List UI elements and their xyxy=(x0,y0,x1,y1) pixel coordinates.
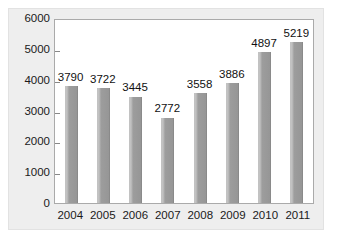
y-tick-label: 1000 xyxy=(9,167,50,179)
bar-value-label: 4897 xyxy=(251,38,277,50)
y-axis: 0100020003000400050006000 xyxy=(9,19,50,204)
plot-area: 37903722344527723558388648975219 xyxy=(54,19,314,204)
bar-value-label: 3886 xyxy=(219,69,245,81)
bar-series: 37903722344527723558388648975219 xyxy=(55,20,313,203)
bar xyxy=(226,83,239,203)
bar-slot: 2772 xyxy=(152,20,184,203)
bar-slot: 3445 xyxy=(120,20,152,203)
x-axis: 20042005200620072008200920102011 xyxy=(54,206,314,224)
y-tick-label: 4000 xyxy=(9,75,50,87)
x-tick-label: 2006 xyxy=(119,206,152,224)
y-tick-label: 2000 xyxy=(9,137,50,149)
bar-value-label: 3790 xyxy=(58,72,84,84)
bar-value-label: 3722 xyxy=(90,74,116,86)
y-tick-label: 6000 xyxy=(9,13,50,25)
bar-slot: 3722 xyxy=(87,20,119,203)
bar xyxy=(97,88,110,203)
bar xyxy=(129,97,142,203)
x-tick-label: 2010 xyxy=(249,206,282,224)
y-tick-mark xyxy=(55,113,60,114)
y-tick-mark xyxy=(55,174,60,175)
bar-slot: 5219 xyxy=(281,20,313,203)
bar xyxy=(258,52,271,203)
y-tick-mark xyxy=(55,82,60,83)
chart-figure: 0100020003000400050006000 37903722344527… xyxy=(8,8,324,230)
bar xyxy=(161,118,174,203)
y-tick-label: 0 xyxy=(9,198,50,210)
bar xyxy=(290,42,303,203)
y-tick-label: 5000 xyxy=(9,44,50,56)
x-tick-label: 2011 xyxy=(282,206,315,224)
x-tick-label: 2008 xyxy=(184,206,217,224)
bar-slot: 3790 xyxy=(55,20,87,203)
y-tick-mark xyxy=(55,51,60,52)
x-tick-label: 2004 xyxy=(54,206,87,224)
bar-slot: 4897 xyxy=(249,20,281,203)
bar-value-label: 5219 xyxy=(284,28,310,40)
bar-value-label: 2772 xyxy=(155,103,181,115)
x-tick-label: 2005 xyxy=(87,206,120,224)
bar xyxy=(65,86,78,203)
bar-slot: 3886 xyxy=(216,20,248,203)
x-tick-label: 2009 xyxy=(217,206,250,224)
bar xyxy=(194,93,207,203)
x-tick-label: 2007 xyxy=(152,206,185,224)
bar-value-label: 3445 xyxy=(122,82,148,94)
bar-value-label: 3558 xyxy=(187,79,213,91)
y-tick-label: 3000 xyxy=(9,106,50,118)
y-tick-mark xyxy=(55,143,60,144)
bar-slot: 3558 xyxy=(184,20,216,203)
